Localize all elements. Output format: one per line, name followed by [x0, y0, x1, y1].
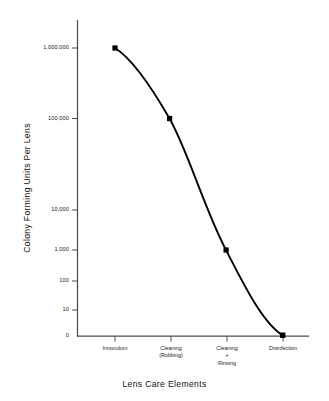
x-tick-label-line: Disinfection [243, 345, 323, 352]
y-tick-label-10000: 10,000 [9, 206, 69, 212]
x-tick-label-line: + [187, 352, 267, 359]
x-axis-ticks [115, 336, 283, 342]
data-point-disinfection [280, 333, 285, 338]
y-tick-label-100: 100 [9, 277, 69, 283]
x-tick-label-disinfection: Disinfection [243, 345, 323, 352]
data-point-cleaning-rubbing [167, 116, 172, 121]
data-point-innoculum [112, 45, 117, 50]
y-tick-label-1000: 1,000 [9, 246, 69, 252]
y-tick-label-0: 0 [9, 332, 69, 338]
chart-container: 1,000,000 100,000 10,000 1,000 100 10 0 … [0, 0, 329, 401]
y-tick-label-1000000: 1,000,000 [9, 44, 69, 50]
data-point-markers [112, 45, 285, 338]
y-tick-label-10: 10 [9, 306, 69, 312]
y-tick-label-100000: 100,000 [9, 115, 69, 121]
data-series-line [115, 48, 283, 335]
data-point-cleaning-rinsing [224, 247, 229, 252]
x-axis-title: Lens Care Elements [0, 379, 329, 389]
x-tick-label-line: Rinsing [187, 360, 267, 367]
chart-plot-area [0, 0, 329, 401]
y-axis-title: Colony Forming Units Per Lens [22, 88, 32, 288]
